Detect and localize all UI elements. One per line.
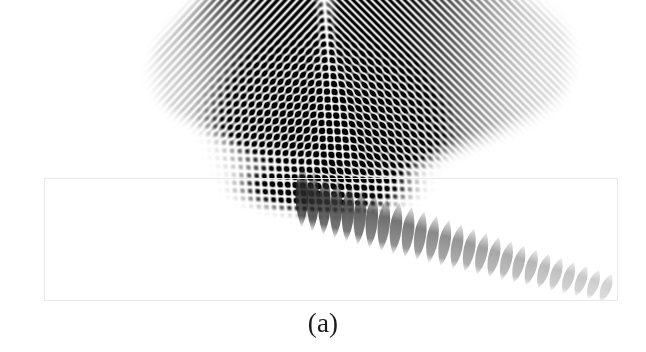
figure-panel-a: (a): [0, 0, 646, 352]
wave-interference-heatmap: [0, 0, 646, 352]
figure-caption: (a): [0, 308, 646, 339]
